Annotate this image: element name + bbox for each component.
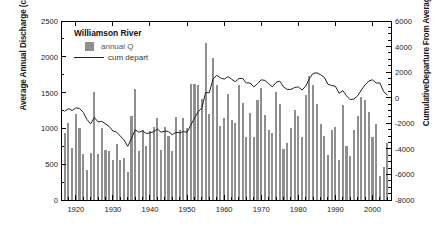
plot-canvas [0,0,446,229]
line-series-cum-depart [65,73,388,147]
legend-chart-title: Williamson River [74,28,141,38]
legend-line-cum-depart [74,57,104,58]
legend-label-annual-q: annual Q [101,42,133,51]
bar-series-annual-q [64,43,389,200]
legend-label-cum-depart: cum depart [108,53,148,62]
chart-figure: Average Annual Discharge (cfs) Cumulativ… [0,0,446,229]
legend-swatch-annual-q [85,42,94,51]
